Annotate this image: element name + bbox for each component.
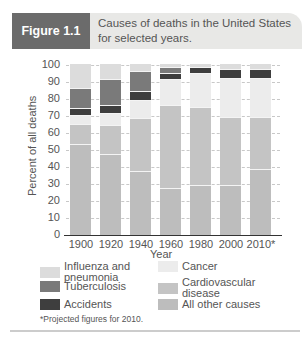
legend-swatch	[40, 281, 60, 292]
bar-segment	[160, 64, 181, 68]
x-tick-label: 2010*	[244, 238, 278, 250]
bar-segment	[250, 117, 271, 171]
legend-item: Tuberculosis	[40, 281, 126, 292]
bar-segment	[250, 78, 271, 118]
legend-item: Cardiovasculardisease	[158, 277, 255, 299]
figure-label: Figure 1.1	[12, 13, 90, 49]
legend-swatch	[158, 283, 178, 294]
legend-label: All other causes	[182, 299, 260, 310]
bar-segment	[130, 91, 151, 101]
footnote: *Projected figures for 2010.	[40, 314, 143, 324]
bar-segment	[250, 170, 271, 235]
bar-segment	[70, 108, 91, 116]
bar-segment	[70, 124, 91, 145]
x-tick-label: 1920	[94, 238, 128, 250]
bar-segment	[220, 69, 241, 79]
bar-segment	[220, 117, 241, 186]
x-axis-label: Year	[150, 248, 172, 260]
y-tick-label: 90	[36, 75, 60, 87]
bar-segment	[190, 186, 211, 235]
bar-segment	[70, 64, 91, 89]
bar-segment	[70, 115, 91, 125]
bar-segment	[250, 64, 271, 70]
bar-segment	[160, 105, 181, 189]
legend-label: Cancer	[182, 261, 217, 272]
y-tick-label: 60	[36, 126, 60, 138]
y-tick-label: 0	[36, 228, 60, 240]
y-tick-label: 30	[36, 177, 60, 189]
bar-segment	[190, 107, 211, 186]
bar-segment	[100, 113, 121, 126]
legend-label: Cardiovasculardisease	[182, 277, 255, 299]
legend-item: Cancer	[158, 261, 217, 272]
bar-segment	[220, 78, 241, 118]
y-tick-label: 10	[36, 211, 60, 223]
legend-swatch	[40, 299, 60, 310]
bar-segment	[100, 155, 121, 235]
legend: Influenza andpneumoniaTuberculosisAccide…	[40, 261, 280, 321]
bar-segment	[220, 64, 241, 70]
y-tick-label: 70	[36, 109, 60, 121]
bar-1920	[100, 65, 121, 235]
bar-segment	[190, 64, 211, 68]
bar-segment	[160, 79, 181, 106]
bar-segment	[100, 125, 121, 155]
bar-segment	[130, 71, 151, 92]
legend-label: Accidents	[64, 299, 112, 310]
bar-segment	[160, 189, 181, 235]
bar-segment	[130, 100, 151, 120]
figure-title: Causes of deaths in the United States fo…	[98, 16, 298, 46]
bar-1940	[130, 65, 151, 235]
bar-segment	[220, 186, 241, 235]
bar-segment	[100, 105, 121, 115]
bar-segment	[130, 64, 151, 72]
bar-segment	[130, 172, 151, 235]
bar-1980	[190, 65, 211, 235]
legend-item: Accidents	[40, 299, 112, 310]
bar-2010	[250, 65, 271, 235]
x-tick-label: 1900	[64, 238, 98, 250]
bar-segment	[160, 73, 181, 81]
bar-segment	[70, 145, 91, 235]
bar-segment	[190, 73, 211, 108]
bar-2000	[220, 65, 241, 235]
bar-1960	[160, 65, 181, 235]
bottom-divider	[10, 330, 300, 332]
bar-segment	[70, 88, 91, 109]
legend-swatch	[158, 299, 178, 310]
figure-header: Figure 1.1 Causes of deaths in the Unite…	[12, 13, 302, 49]
x-tick-label: 1980	[184, 238, 218, 250]
bar-segment	[130, 118, 151, 172]
bar-segment	[250, 69, 271, 79]
bar-segment	[100, 64, 121, 80]
x-axis-line	[64, 235, 282, 236]
legend-swatch	[40, 267, 60, 278]
y-tick-label: 50	[36, 143, 60, 155]
legend-label: Tuberculosis	[64, 281, 126, 292]
x-tick-label: 2000	[214, 238, 248, 250]
y-tick-label: 20	[36, 194, 60, 206]
bar-1900	[70, 65, 91, 235]
bar-segment	[100, 79, 121, 106]
y-tick-label: 80	[36, 92, 60, 104]
legend-item: All other causes	[158, 299, 260, 310]
legend-swatch	[158, 261, 178, 272]
y-tick-label: 40	[36, 160, 60, 172]
y-tick-label: 100	[36, 58, 60, 70]
